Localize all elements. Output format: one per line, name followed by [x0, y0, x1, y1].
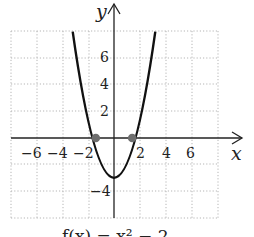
x-axis-label: x	[231, 142, 242, 164]
x-intercept-point	[92, 134, 101, 143]
x-tick: −6	[21, 145, 42, 161]
graph: x y −6 −4 −2 2 4 6 6 4 2 −4 f(x) = x² − …	[0, 0, 254, 237]
x-intercept-point	[128, 134, 137, 143]
y-tick: 2	[100, 103, 109, 119]
y-tick: 6	[100, 49, 109, 65]
y-axis-label: y	[95, 0, 107, 22]
x-tick: 6	[186, 145, 195, 161]
x-tick: −2	[73, 145, 94, 161]
x-tick: −4	[47, 145, 68, 161]
y-tick: −4	[90, 183, 111, 199]
x-tick: 4	[162, 145, 171, 161]
y-tick: 4	[100, 76, 109, 92]
y-tick-labels: 6 4 2 −4	[90, 49, 111, 199]
x-tick: 2	[136, 145, 145, 161]
function-caption: f(x) = x² − 2	[62, 226, 168, 237]
x-tick-labels: −6 −4 −2 2 4 6	[21, 145, 195, 161]
